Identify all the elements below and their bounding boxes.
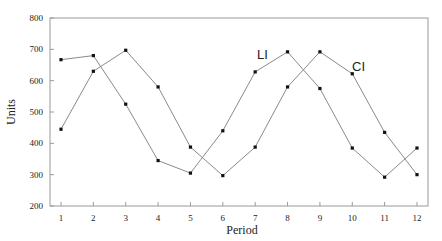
x-tick-label: 12: [413, 213, 422, 223]
x-tick-label: 4: [156, 213, 161, 223]
data-point: [254, 70, 257, 73]
x-axis-title: Period: [226, 223, 257, 237]
data-point: [415, 146, 418, 149]
data-point: [59, 128, 62, 131]
x-tick-label: 1: [59, 213, 64, 223]
data-point: [318, 50, 321, 53]
data-point: [383, 131, 386, 134]
data-point: [156, 159, 159, 162]
y-tick-label: 500: [30, 107, 44, 117]
plot-area: 200300400500600700800123456789101112Peri…: [4, 13, 428, 237]
data-point: [254, 145, 257, 148]
x-tick-label: 7: [253, 213, 258, 223]
y-tick-label: 800: [30, 13, 44, 23]
data-point: [383, 176, 386, 179]
y-tick-label: 600: [30, 76, 44, 86]
data-point: [59, 58, 62, 61]
data-point: [221, 129, 224, 132]
data-point: [318, 87, 321, 90]
y-axis-title: Units: [4, 99, 18, 125]
y-tick-label: 700: [30, 44, 44, 54]
data-point: [351, 146, 354, 149]
data-point: [156, 85, 159, 88]
data-point: [286, 50, 289, 53]
data-point: [415, 173, 418, 176]
data-point: [189, 145, 192, 148]
data-point: [124, 49, 127, 52]
data-point: [286, 85, 289, 88]
x-tick-label: 8: [285, 213, 290, 223]
x-tick-label: 2: [91, 213, 96, 223]
y-tick-label: 400: [30, 138, 44, 148]
line-chart: 200300400500600700800123456789101112Peri…: [0, 0, 442, 241]
data-point: [189, 172, 192, 175]
series-label-ci: CI: [352, 59, 365, 74]
data-point: [92, 70, 95, 73]
x-tick-label: 10: [348, 213, 358, 223]
y-tick-label: 300: [30, 170, 44, 180]
plot-frame: [50, 18, 428, 206]
data-point: [124, 103, 127, 106]
x-tick-label: 5: [188, 213, 193, 223]
x-tick-label: 11: [380, 213, 389, 223]
data-point: [92, 54, 95, 57]
series-label-li: LI: [257, 47, 268, 62]
y-tick-label: 200: [30, 201, 44, 211]
data-point: [221, 174, 224, 177]
x-tick-label: 3: [123, 213, 128, 223]
x-tick-label: 6: [221, 213, 226, 223]
x-tick-label: 9: [318, 213, 323, 223]
